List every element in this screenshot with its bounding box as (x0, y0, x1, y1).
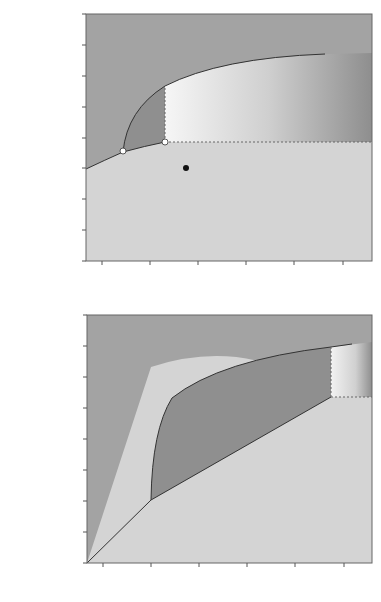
critical-point-marker (162, 139, 168, 145)
supercritical-region (331, 342, 372, 397)
triple-point-marker (120, 148, 126, 154)
phase-diagram-a (0, 0, 381, 300)
atmospheric-point-marker (183, 165, 189, 171)
panel-b (0, 300, 381, 602)
panel-a (0, 0, 381, 300)
gas-region (86, 142, 372, 261)
phase-diagram-b (0, 300, 381, 602)
